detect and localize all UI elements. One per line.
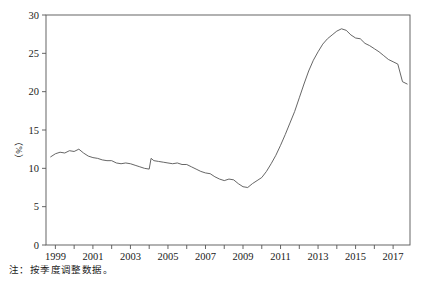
y-tick-label: 20 <box>29 86 40 97</box>
line-chart: 051015202530 199920012003200520072009201… <box>0 0 422 281</box>
x-tick-label: 2003 <box>120 251 141 262</box>
x-tick-label: 2013 <box>308 251 329 262</box>
x-tick-label: 1999 <box>45 251 66 262</box>
y-tick-label: 5 <box>34 201 39 212</box>
x-tick-label: 2015 <box>345 251 366 262</box>
data-series-group <box>51 29 408 188</box>
chart-figure: 051015202530 199920012003200520072009201… <box>0 0 422 281</box>
x-axis-ticks: 1999200120032005200720092011201320152017 <box>45 245 404 262</box>
y-axis-title: （%） <box>14 137 24 163</box>
x-tick-label: 2005 <box>157 251 178 262</box>
y-tick-label: 25 <box>29 48 40 59</box>
x-tick-label: 2017 <box>383 251 404 262</box>
y-tick-label: 30 <box>29 10 40 21</box>
x-tick-label: 2001 <box>82 251 103 262</box>
data-line <box>51 29 408 188</box>
y-tick-label: 15 <box>29 125 40 136</box>
x-tick-label: 2009 <box>233 251 254 262</box>
y-tick-label: 10 <box>29 163 40 174</box>
y-tick-label: 0 <box>34 240 39 251</box>
footnote: 注：按季度调整数据。 <box>9 262 113 276</box>
plot-frame <box>46 15 410 245</box>
x-tick-label: 2011 <box>270 251 291 262</box>
x-tick-label: 2007 <box>195 251 216 262</box>
y-axis-ticks: 051015202530 <box>29 10 47 251</box>
plot-border <box>46 15 410 245</box>
